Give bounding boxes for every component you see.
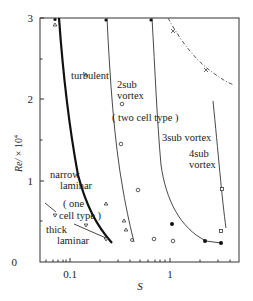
y-tick-2: 2 — [28, 93, 34, 105]
y-tick-0: 0 — [12, 256, 18, 268]
y-axis-ticks — [40, 18, 44, 221]
y-axis-label: Re/ × 104 — [13, 135, 24, 173]
label-narrow-1: narrow — [50, 169, 80, 180]
open-circle-markers — [119, 102, 175, 243]
bottom-connector — [206, 241, 221, 243]
label-2sub-1: 2sub — [117, 79, 137, 90]
x-tick-1: 1 — [167, 268, 173, 280]
label-one-cell-1: ( one — [63, 198, 85, 210]
label-turbulent: turbulent — [71, 70, 109, 81]
chart: 3 2 1 0 0.1 1 S Re/ × 104 — [0, 0, 253, 301]
thin-laminar-line — [45, 203, 56, 212]
label-thick-2: laminar — [57, 235, 90, 246]
upper-dashed-boundary — [168, 18, 234, 85]
label-one-cell-2: cell type ) — [59, 210, 101, 222]
label-3sub-vortex: 3sub vortex — [162, 132, 212, 143]
y-tick-1: 1 — [28, 175, 34, 187]
x-axis-label: S — [137, 280, 143, 292]
label-two-cell-type: ( two cell type ) — [112, 112, 179, 124]
label-narrow-2: laminar — [60, 180, 93, 191]
label-4sub-2: vortex — [189, 159, 217, 170]
label-2sub-2: vortex — [117, 90, 145, 101]
x-axis-ticks — [46, 258, 230, 262]
turbulent-2sub-boundary — [107, 18, 134, 242]
2sub-3sub-boundary — [152, 18, 206, 241]
open-square-markers — [220, 188, 224, 233]
y-tick-3: 3 — [28, 12, 34, 24]
label-thick-1: thick — [46, 224, 68, 235]
x-tick-0.1: 0.1 — [63, 268, 77, 280]
label-4sub-1: 4sub — [189, 148, 209, 159]
